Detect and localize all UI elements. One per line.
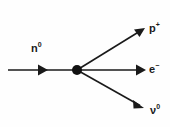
interaction-vertex-dot [72,65,82,75]
decay-diagram-svg [0,0,170,127]
outgoing-neutrino-arrowhead [133,100,144,109]
incoming-neutron-arrowhead [38,65,48,76]
outgoing-proton-line [77,31,141,71]
label-proton-symbol: p [149,22,156,34]
feynman-diagram-figure: n0 p+ e− ν0 [0,0,170,127]
label-neutrino: ν0 [150,103,160,116]
label-neutron: n0 [31,41,42,54]
label-proton: p+ [149,21,160,34]
label-proton-charge: + [156,21,160,28]
label-neutron-symbol: n [31,42,38,54]
label-neutrino-charge: 0 [156,103,160,110]
outgoing-electron-arrowhead [136,65,146,76]
outgoing-proton-arrowhead [134,28,145,37]
label-neutron-charge: 0 [38,41,42,48]
label-electron: e− [149,62,159,75]
label-electron-charge: − [155,62,159,69]
outgoing-neutrino-line [77,70,140,106]
